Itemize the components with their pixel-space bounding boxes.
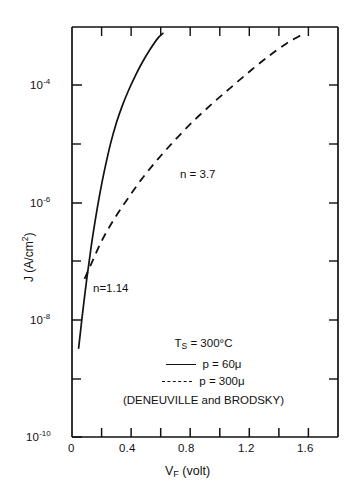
legend: TS = 300°C p = 60μ p = 300μ (DENEUVILLE … xyxy=(96,337,311,406)
legend-condition-value: = 300°C xyxy=(187,337,232,349)
legend-entry-p300-label: p = 300μ xyxy=(199,375,244,387)
legend-condition: TS = 300°C xyxy=(96,337,311,356)
legend-condition-symbol: T xyxy=(175,337,182,349)
x-tick-label-0: 0 xyxy=(68,442,75,454)
y-tick-label-1e-4: 10-4 xyxy=(30,77,50,91)
y-tick-label-1e-6: 10-6 xyxy=(30,195,50,209)
x-axis-label: VF (volt) xyxy=(165,464,210,479)
y-axis-right-ticks xyxy=(329,85,338,379)
plot-canvas xyxy=(0,0,358,494)
y-axis-label: J (A/cm2) xyxy=(20,233,36,282)
figure-container: 10-4 10-6 10-8 10-10 J (A/cm2) 0 0.4 0.8… xyxy=(0,0,358,494)
annotation-n-3-7: n = 3.7 xyxy=(180,168,216,180)
legend-dashed-swatch-icon xyxy=(162,381,192,382)
legend-credit: (DENEUVILLE and BRODSKY) xyxy=(96,394,311,406)
annotation-n-1-14: n=1.14 xyxy=(93,282,129,294)
y-tick-label-1e-8: 10-8 xyxy=(30,312,50,326)
legend-entry-p60-label: p = 60μ xyxy=(203,358,242,370)
legend-entry-p300: p = 300μ xyxy=(96,373,311,390)
x-axis-top-ticks xyxy=(102,27,309,36)
x-tick-label-0-4: 0.4 xyxy=(119,442,136,454)
y-tick-label-1e-10: 10-10 xyxy=(26,429,51,443)
x-tick-label-1-2: 1.2 xyxy=(238,442,255,454)
x-tick-label-0-8: 0.8 xyxy=(178,442,195,454)
series-line-p60 xyxy=(79,33,163,348)
x-tick-label-1-6: 1.6 xyxy=(297,442,314,454)
legend-solid-swatch-icon xyxy=(166,364,196,365)
series-line-p300 xyxy=(85,33,304,279)
legend-entry-p60: p = 60μ xyxy=(96,356,311,373)
x-axis-ticks xyxy=(102,428,309,437)
